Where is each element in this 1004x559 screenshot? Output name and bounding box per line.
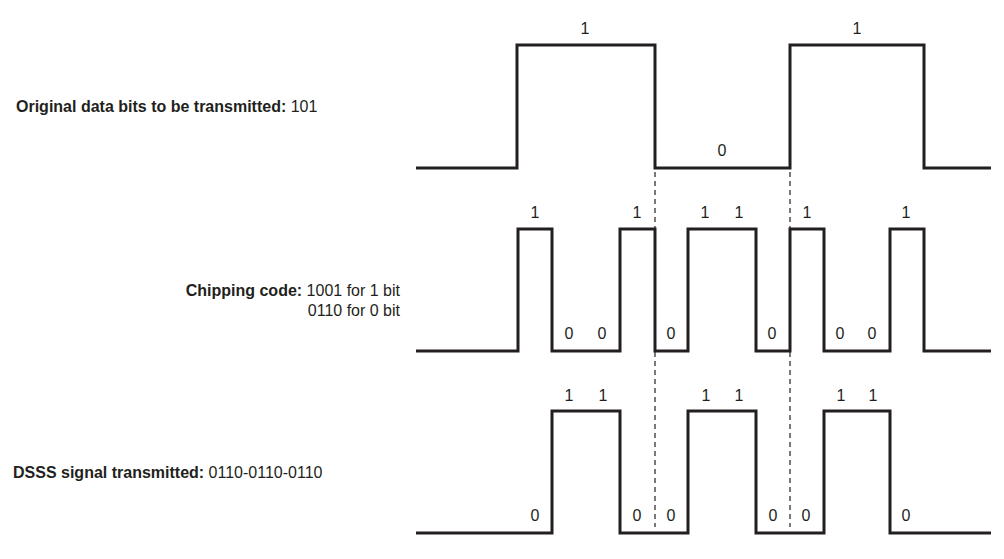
dsss-signal-bit-label: 0: [802, 507, 811, 524]
chipping-code-bit-label: 0: [598, 325, 607, 342]
chipping-code-bit-label: 1: [701, 204, 710, 221]
dsss-signal-bit-label: 1: [599, 387, 608, 404]
chipping-code-bit-label: 1: [902, 204, 911, 221]
dsss-signal-bit-label: 0: [769, 507, 778, 524]
chipping-code-bit-label: 0: [565, 325, 574, 342]
waveforms: [416, 45, 991, 533]
dsss-signal-bit-label: 0: [633, 507, 642, 524]
chipping-code-bit-label: 1: [531, 204, 540, 221]
dsss-signal-bit-label: 0: [531, 507, 540, 524]
dsss-signal-bit-label: 1: [869, 387, 878, 404]
dsss-diagram: Original data bits to be transmitted: 10…: [0, 0, 1004, 559]
dsss-signal-bit-label: 1: [735, 387, 744, 404]
data-bits-bit-label: 1: [581, 20, 590, 37]
data-bits-waveform: [416, 45, 991, 168]
chipping-code-waveform: [416, 229, 991, 351]
dsss-signal-bit-label: 1: [702, 387, 711, 404]
dsss-signal-bit-label: 0: [667, 507, 676, 524]
waveform-canvas: 101100101101001011001100110: [0, 0, 1004, 559]
bit-labels: 101100101101001011001100110: [531, 20, 911, 524]
chipping-code-bit-label: 1: [633, 204, 642, 221]
chipping-code-bit-label: 0: [836, 325, 845, 342]
data-bits-bit-label: 0: [718, 142, 727, 159]
data-bits-bit-label: 1: [853, 20, 862, 37]
dsss-signal-bit-label: 1: [565, 387, 574, 404]
dsss-signal-bit-label: 0: [902, 507, 911, 524]
dsss-signal-bit-label: 1: [837, 387, 846, 404]
chipping-code-bit-label: 0: [868, 325, 877, 342]
chipping-code-bit-label: 1: [735, 204, 744, 221]
chipping-code-bit-label: 0: [667, 325, 676, 342]
chipping-code-bit-label: 0: [768, 325, 777, 342]
chipping-code-bit-label: 1: [803, 204, 812, 221]
